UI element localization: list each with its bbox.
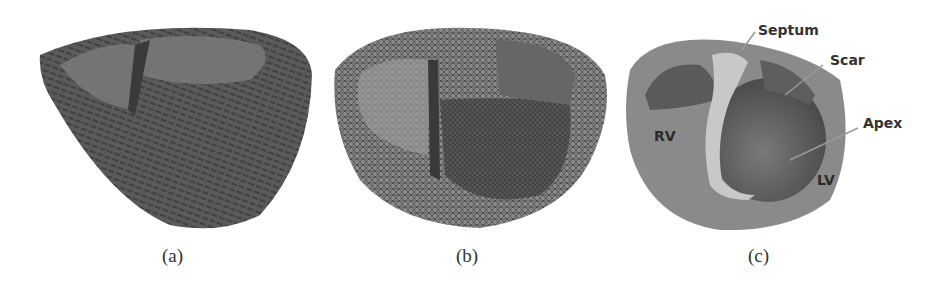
label-apex: Apex (863, 115, 902, 131)
label-scar: Scar (830, 52, 865, 68)
caption-b: (b) (456, 245, 478, 267)
label-septum: Septum (758, 22, 819, 38)
caption-c: (c) (748, 245, 769, 267)
caption-a: (a) (162, 245, 183, 267)
label-rv: RV (654, 128, 676, 144)
label-lv: LV (817, 172, 835, 188)
panel-a-heart-fibers (40, 28, 312, 229)
panel-b-heart-mesh (334, 28, 607, 228)
